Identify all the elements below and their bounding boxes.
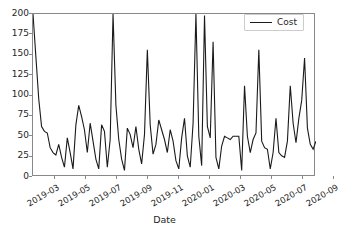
x-tick-mark — [147, 176, 148, 179]
y-tick-label: 25 — [3, 151, 29, 160]
y-tick-mark — [29, 156, 32, 157]
y-tick-mark — [29, 33, 32, 34]
y-tick-label: 150 — [3, 49, 29, 58]
legend-swatch-cost — [250, 22, 272, 23]
x-tick-mark — [209, 176, 210, 179]
y-tick-mark — [29, 176, 32, 177]
x-tick-mark — [178, 176, 179, 179]
x-tick-mark — [333, 176, 334, 179]
x-tick-mark — [85, 176, 86, 179]
x-axis-tick-labels: 2019-032019-052019-072019-092019-112020-… — [0, 176, 329, 216]
y-tick-mark — [29, 74, 32, 75]
y-tick-label: 175 — [3, 29, 29, 38]
legend-label-cost: Cost — [277, 18, 297, 27]
y-axis-tick-labels: 0255075100125150175200 — [0, 13, 29, 176]
y-tick-label: 50 — [3, 131, 29, 140]
chart-legend: Cost — [244, 14, 304, 31]
x-axis-label: Date — [0, 214, 329, 225]
line-series-svg — [33, 14, 316, 177]
y-tick-mark — [29, 95, 32, 96]
y-tick-mark — [29, 54, 32, 55]
plot-area — [32, 13, 315, 176]
y-tick-label: 75 — [3, 110, 29, 119]
y-tick-mark — [29, 135, 32, 136]
y-tick-mark — [29, 13, 32, 14]
y-tick-label: 200 — [3, 9, 29, 18]
x-tick-mark — [54, 176, 55, 179]
y-tick-label: 125 — [3, 70, 29, 79]
y-tick-mark — [29, 115, 32, 116]
x-tick-mark — [116, 176, 117, 179]
y-tick-label: 100 — [3, 90, 29, 99]
x-tick-mark — [240, 176, 241, 179]
x-tick-mark — [271, 176, 272, 179]
cost-line — [33, 14, 316, 170]
x-tick-mark — [302, 176, 303, 179]
